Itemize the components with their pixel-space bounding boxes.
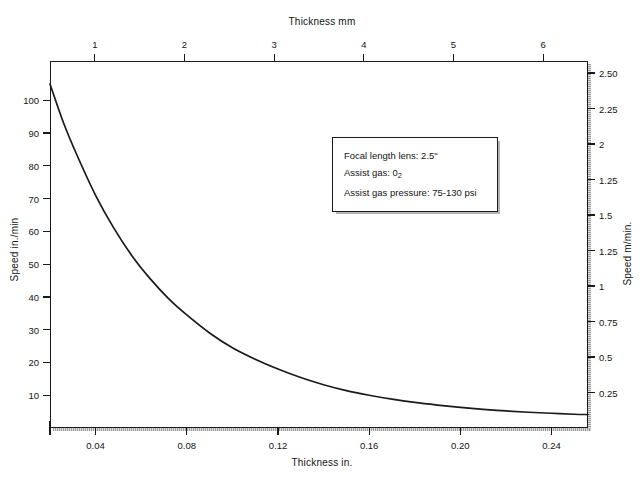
tick-left-1 bbox=[43, 362, 50, 363]
frame-shadow-right bbox=[588, 64, 591, 431]
annotation-assist-gas-pressure: Assist gas pressure: 75-130 psi bbox=[344, 184, 486, 201]
left-axis-title: Speed in./min bbox=[9, 200, 20, 300]
tick-left-2 bbox=[43, 329, 50, 330]
tick-top-1 bbox=[184, 54, 185, 61]
tick-label-left-9: 100 bbox=[23, 95, 39, 106]
tick-left-3 bbox=[43, 296, 50, 297]
tick-label-right-5: 1.5 bbox=[599, 210, 612, 221]
tick-right-3 bbox=[588, 285, 595, 286]
tick-right-1 bbox=[588, 356, 595, 357]
tick-label-right-3: 1 bbox=[599, 281, 604, 292]
tick-label-top-0: 1 bbox=[92, 39, 97, 50]
tick-label-top-1: 2 bbox=[182, 39, 187, 50]
frame-shadow-bottom bbox=[53, 428, 591, 431]
annotation-assist-gas-text: Assist gas: 0 bbox=[344, 167, 398, 178]
tick-bottom-2 bbox=[277, 428, 278, 435]
tick-label-left-8: 90 bbox=[28, 128, 39, 139]
tick-label-bottom-1: 0.08 bbox=[178, 440, 197, 451]
tick-right-8 bbox=[588, 108, 595, 109]
data-curve bbox=[50, 61, 588, 428]
tick-left-4 bbox=[43, 264, 50, 265]
tick-right-7 bbox=[588, 143, 595, 144]
tick-bottom-3 bbox=[369, 428, 370, 435]
tick-bottom-1 bbox=[186, 428, 187, 435]
tick-bottom-5 bbox=[551, 428, 552, 435]
tick-label-right-9: 2.50 bbox=[599, 68, 618, 79]
annotation-assist-gas-subscript: 2 bbox=[398, 171, 402, 180]
tick-label-top-5: 6 bbox=[541, 39, 546, 50]
tick-label-right-6: 1.25 bbox=[599, 174, 618, 185]
tick-label-left-6: 70 bbox=[28, 193, 39, 204]
tick-left-0 bbox=[43, 395, 50, 396]
bottom-axis-title: Thickness in. bbox=[0, 457, 644, 468]
tick-label-top-3: 4 bbox=[361, 39, 366, 50]
tick-bottom-4 bbox=[460, 428, 461, 435]
tick-label-bottom-0: 0.04 bbox=[86, 440, 105, 451]
tick-label-bottom-4: 0.20 bbox=[451, 440, 470, 451]
tick-top-4 bbox=[453, 54, 454, 61]
tick-label-right-2: 0.75 bbox=[599, 316, 618, 327]
tick-label-left-0: 10 bbox=[28, 390, 39, 401]
tick-right-4 bbox=[588, 250, 595, 251]
tick-label-left-7: 80 bbox=[28, 160, 39, 171]
tick-label-left-4: 50 bbox=[28, 259, 39, 270]
tick-label-bottom-2: 0.12 bbox=[269, 440, 288, 451]
tick-left-6 bbox=[43, 198, 50, 199]
tick-top-0 bbox=[94, 54, 95, 61]
tick-label-right-0: 0.25 bbox=[599, 387, 618, 398]
curve-path bbox=[50, 84, 588, 415]
top-axis-title: Thickness mm bbox=[0, 16, 644, 27]
tick-right-0 bbox=[588, 392, 595, 393]
tick-top-2 bbox=[274, 54, 275, 61]
tick-label-right-4: 1.25 bbox=[599, 245, 618, 256]
tick-right-5 bbox=[588, 214, 595, 215]
tick-label-left-1: 20 bbox=[28, 357, 39, 368]
tick-bottom-origin bbox=[49, 421, 50, 435]
tick-label-bottom-5: 0.24 bbox=[542, 440, 561, 451]
tick-bottom-0 bbox=[95, 428, 96, 435]
tick-right-9 bbox=[588, 72, 595, 73]
annotation-focal-length: Focal length lens: 2.5" bbox=[344, 147, 486, 164]
tick-label-right-8: 2.25 bbox=[599, 103, 618, 114]
tick-left-8 bbox=[43, 132, 50, 133]
tick-right-2 bbox=[588, 321, 595, 322]
plot-area: 123456 0.040.080.120.160.200.24 10203040… bbox=[50, 61, 588, 428]
tick-label-left-2: 30 bbox=[28, 324, 39, 335]
tick-left-7 bbox=[43, 165, 50, 166]
tick-label-left-3: 40 bbox=[28, 291, 39, 302]
right-axis-title: Speed m/min. bbox=[622, 204, 633, 304]
tick-label-right-1: 0.5 bbox=[599, 352, 612, 363]
parameters-annotation-box: Focal length lens: 2.5" Assist gas: 02 A… bbox=[332, 137, 498, 212]
tick-right-6 bbox=[588, 179, 595, 180]
tick-left-9 bbox=[43, 100, 50, 101]
tick-label-left-5: 60 bbox=[28, 226, 39, 237]
tick-label-top-4: 5 bbox=[451, 39, 456, 50]
chart-figure: Thickness mm Thickness in. Speed in./min… bbox=[0, 0, 644, 480]
tick-top-3 bbox=[363, 54, 364, 61]
annotation-assist-gas: Assist gas: 02 bbox=[344, 164, 486, 184]
tick-top-5 bbox=[543, 54, 544, 61]
tick-left-5 bbox=[43, 231, 50, 232]
tick-label-top-2: 3 bbox=[272, 39, 277, 50]
tick-label-right-7: 2 bbox=[599, 139, 604, 150]
tick-label-bottom-3: 0.16 bbox=[360, 440, 379, 451]
